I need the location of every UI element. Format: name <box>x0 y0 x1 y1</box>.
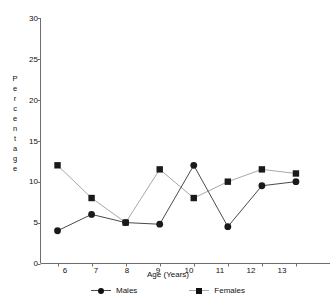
legend-label-males: Males <box>116 286 137 295</box>
data-point-circle <box>293 178 300 185</box>
legend-item-females: Females <box>189 286 245 295</box>
square-marker-icon <box>189 287 209 295</box>
data-point-square <box>293 170 299 176</box>
data-point-square <box>88 195 94 201</box>
legend-item-males: Males <box>91 286 137 295</box>
data-point-square <box>54 162 60 168</box>
data-point-square <box>157 166 163 172</box>
circle-marker-icon <box>91 287 111 295</box>
data-point-circle <box>224 223 231 230</box>
data-point-square <box>191 195 197 201</box>
data-point-circle <box>54 227 61 234</box>
data-point-circle <box>258 182 265 189</box>
data-point-circle <box>122 219 129 226</box>
data-point-circle <box>190 162 197 169</box>
data-point-square <box>225 178 231 184</box>
data-point-square <box>259 166 265 172</box>
x-axis-title: Age (Years) <box>0 270 336 279</box>
plot-area <box>0 0 336 304</box>
line-chart: P e r c e n t a g e 30 25 20 15 10 5 0 6… <box>0 0 336 304</box>
data-point-circle <box>88 211 95 218</box>
chart-legend: Males Females <box>0 286 336 295</box>
legend-label-females: Females <box>214 286 245 295</box>
data-point-circle <box>156 221 163 228</box>
